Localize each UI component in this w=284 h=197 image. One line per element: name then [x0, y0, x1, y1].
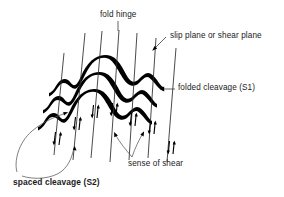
label-sense-of-shear: sense of shear	[128, 160, 183, 168]
sense-of-shear-leader	[114, 131, 144, 157]
shear-arrow-pair	[52, 132, 62, 146]
label-slip-plane: slip plane or shear plane	[170, 32, 262, 40]
slip-plane-line[interactable]	[167, 48, 176, 162]
folded-cleavage-band-group	[38, 55, 163, 131]
slip-plane-leader	[152, 37, 166, 51]
slip-plane-line-group	[54, 30, 176, 162]
label-folded-cleavage: folded cleavage (S1)	[178, 84, 255, 92]
label-spaced-cleavage: spaced cleavage (S2)	[13, 178, 100, 186]
slip-plane-line[interactable]	[54, 53, 64, 155]
label-fold-hinge: fold hinge	[100, 11, 137, 19]
geology-figure: fold hinge slip plane or shear plane fol…	[0, 0, 284, 197]
